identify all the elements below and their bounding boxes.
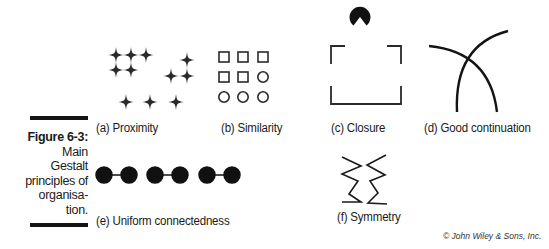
closure-brackets-icon	[331, 46, 401, 104]
label-proximity: (a) Proximity	[96, 121, 158, 135]
proximity-stars-icon	[108, 47, 195, 110]
symmetry-zigzags-icon	[342, 155, 387, 204]
copyright-credit: © John Wiley & Sons, Inc.	[443, 231, 541, 241]
uniform-connectedness-dots-icon	[96, 167, 240, 183]
label-symmetry: (f) Symmetry	[337, 210, 401, 224]
label-good-continuation: (d) Good continuation	[424, 121, 531, 135]
label-similarity: (b) Similarity	[221, 121, 282, 135]
closure-pacman-icon	[350, 7, 371, 26]
label-closure: (c) Closure	[331, 121, 385, 135]
similarity-grid-icon	[219, 52, 268, 102]
good-continuation-arcs-icon	[429, 31, 508, 112]
label-uniform-connectedness: (e) Uniform connectedness	[96, 214, 229, 228]
